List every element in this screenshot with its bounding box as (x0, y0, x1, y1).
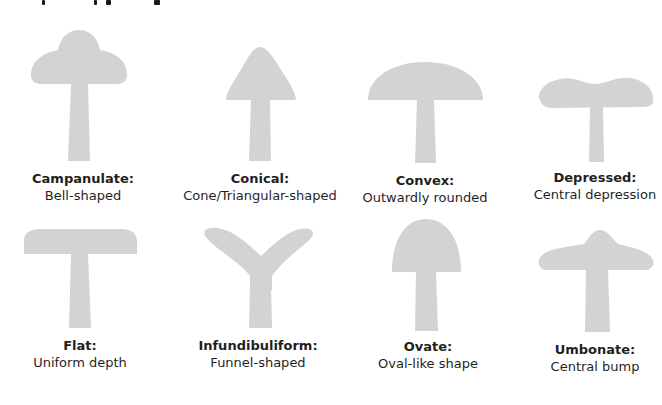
conical-label: Conical: Cone/Triangular-shaped (175, 170, 345, 204)
depressed-label: Depressed: Central depression (510, 169, 662, 203)
campanulate-mushroom-icon (31, 30, 127, 161)
shape-name: Campanulate: (0, 170, 168, 187)
shape-name: Depressed: (510, 169, 662, 186)
infundibuliform-mushroom-icon (204, 228, 313, 328)
shape-name: Convex: (340, 172, 510, 189)
shape-name: Ovate: (343, 338, 513, 355)
convex-label: Convex: Outwardly rounded (340, 172, 510, 206)
shape-description: Uniform depth (0, 354, 165, 371)
ovate-mushroom-icon (392, 219, 461, 331)
convex-mushroom-icon (368, 62, 483, 163)
shape-name: Flat: (0, 337, 165, 354)
shape-description: Cone/Triangular-shaped (175, 187, 345, 204)
flat-mushroom-icon (24, 229, 137, 328)
shape-description: Outwardly rounded (340, 189, 510, 206)
shape-description: Central bump (510, 358, 662, 375)
umbonate-mushroom-icon (539, 230, 654, 332)
conical-mushroom-icon (226, 47, 296, 161)
shape-description: Central depression (510, 186, 662, 203)
shape-description: Funnel-shaped (173, 354, 343, 371)
shape-description: Oval-like shape (343, 355, 513, 372)
shape-name: Conical: (175, 170, 345, 187)
shape-name: Umbonate: (510, 341, 662, 358)
depressed-mushroom-icon (539, 78, 653, 162)
infundibuliform-label: Infundibuliform: Funnel-shaped (173, 337, 343, 371)
shape-description: Bell-shaped (0, 187, 168, 204)
umbonate-label: Umbonate: Central bump (510, 341, 662, 375)
shape-name: Infundibuliform: (173, 337, 343, 354)
ovate-label: Ovate: Oval-like shape (343, 338, 513, 372)
flat-label: Flat: Uniform depth (0, 337, 165, 371)
campanulate-label: Campanulate: Bell-shaped (0, 170, 168, 204)
